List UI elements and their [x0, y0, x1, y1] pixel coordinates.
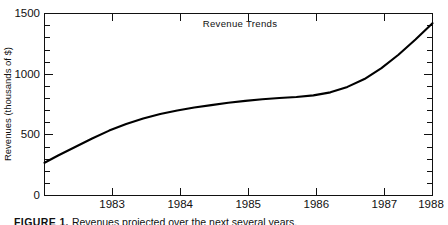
- ytick-label-1500: 1500: [14, 7, 40, 19]
- xtick-label-1985: 1985: [235, 198, 261, 210]
- revenue-trends-chart: 0 500 1000 1500 1983 1984 1985 1986 1987…: [0, 0, 448, 225]
- xtick-label-1987: 1987: [372, 198, 398, 210]
- xtick-label-1984: 1984: [167, 198, 193, 210]
- figure-caption-label: FIGURE 1.: [14, 216, 69, 225]
- y-axis-tick-labels: 0 500 1000 1500: [14, 7, 40, 201]
- ytick-label-0: 0: [34, 189, 40, 201]
- xtick-label-1988: 1988: [418, 198, 444, 210]
- ytick-label-500: 500: [21, 128, 40, 140]
- figure-caption-text: Revenues projected over the next several…: [72, 216, 297, 225]
- axis-frame: [44, 13, 433, 196]
- revenue-series-line: [45, 23, 433, 163]
- figure-container: 0 500 1000 1500 1983 1984 1985 1986 1987…: [0, 0, 448, 225]
- x-axis-tick-labels: 1983 1984 1985 1986 1987 1988: [99, 198, 443, 210]
- x-axis-ticks: [112, 14, 432, 196]
- xtick-label-1983: 1983: [99, 198, 125, 210]
- y-axis-title: Revenues (thousands of $): [2, 47, 13, 161]
- figure-caption: FIGURE 1. Revenues projected over the ne…: [14, 216, 444, 225]
- y-axis-major-ticks: [45, 14, 433, 196]
- ytick-label-1000: 1000: [14, 68, 40, 80]
- xtick-label-1986: 1986: [304, 198, 330, 210]
- y-axis-minor-ticks: [45, 26, 433, 184]
- chart-title: Revenue Trends: [203, 18, 278, 29]
